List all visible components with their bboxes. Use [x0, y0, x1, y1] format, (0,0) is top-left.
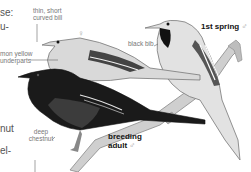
label-underparts-line1: mon yellow — [0, 50, 30, 57]
field-guide-illustration: se: u- nut el- thin, short curved bill m… — [0, 0, 251, 172]
label-bill: thin, short curved bill — [33, 7, 62, 21]
label-underparts-line2: underparts — [0, 57, 30, 64]
title-breeding-line2: adult — [108, 141, 127, 150]
label-bill-line2: curved bill — [33, 14, 62, 21]
label-chestnut-line1: deep — [26, 128, 56, 135]
label-underparts: mon yellow underparts — [0, 50, 30, 64]
male-symbol: ♂ — [129, 141, 135, 150]
label-chestnut-line2: chestnut — [26, 135, 56, 142]
label-bill-line1: thin, short — [33, 7, 62, 14]
female-symbol: ♀ — [78, 30, 84, 38]
side-text-line2: u- — [0, 22, 9, 32]
male-symbol: ♂ — [241, 22, 247, 31]
title-breeding-adult: breeding adult ♂ — [108, 132, 142, 150]
title-first-spring: 1st spring ♂ — [201, 22, 247, 31]
bird-first-spring-male — [145, 20, 240, 160]
title-breeding-line1: breeding — [108, 132, 142, 141]
label-black-bib: black bib — [128, 40, 154, 47]
side-text-line4: el- — [0, 146, 11, 156]
side-text-line1: se: — [0, 8, 13, 18]
side-text-line3: nut — [0, 124, 14, 134]
title-first-spring-text: 1st spring — [201, 22, 239, 31]
label-deep-chestnut: deep chestnut — [26, 128, 56, 142]
title-breeding-line2-row: adult ♂ — [108, 141, 142, 150]
